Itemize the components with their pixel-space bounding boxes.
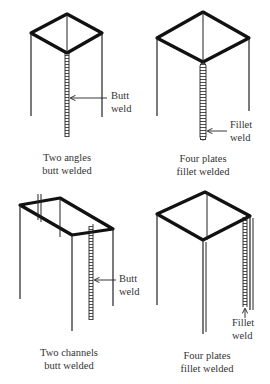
diagram-canvas [0,0,270,384]
weld-label-line1: Fillet [230,118,252,131]
panel-caption: Four plates fillet welded [152,349,262,375]
section-outline [20,198,113,235]
panel-two-channels [20,194,116,331]
caption-line1: Four plates [148,152,258,165]
panel-caption: Four plates fillet welded [148,152,258,178]
weld-label: Fillet weld [232,316,254,342]
fillet-weld-bead [243,217,247,307]
caption-line2: fillet welded [152,362,262,375]
fillet-weld-bead [200,63,206,140]
weld-label-line2: weld [230,131,252,144]
weld-label-line1: Butt [119,272,139,285]
panel-caption: Two channels butt welded [14,346,124,372]
weld-label-line1: Fillet [232,316,254,329]
weld-label: Butt weld [111,89,131,115]
caption-line1: Four plates [152,349,262,362]
section-outline [157,192,250,240]
weld-label: Butt weld [119,272,139,298]
caption-line2: butt welded [14,359,124,372]
caption-line2: butt welded [12,164,122,177]
caption-line1: Two angles [12,151,122,164]
panel-two-angles [31,14,107,137]
weld-label-line1: Butt [111,89,131,102]
weld-label-line2: weld [232,329,254,342]
caption-line1: Two channels [14,346,124,359]
caption-line2: fillet welded [148,165,258,178]
panel-caption: Two angles butt welded [12,151,122,177]
weld-label: Fillet weld [230,118,252,144]
butt-weld-seam [89,224,93,320]
panel-four-plates-bottom [157,192,253,334]
weld-label-line2: weld [111,102,131,115]
weld-label-line2: weld [119,285,139,298]
butt-weld-seam [65,53,69,137]
